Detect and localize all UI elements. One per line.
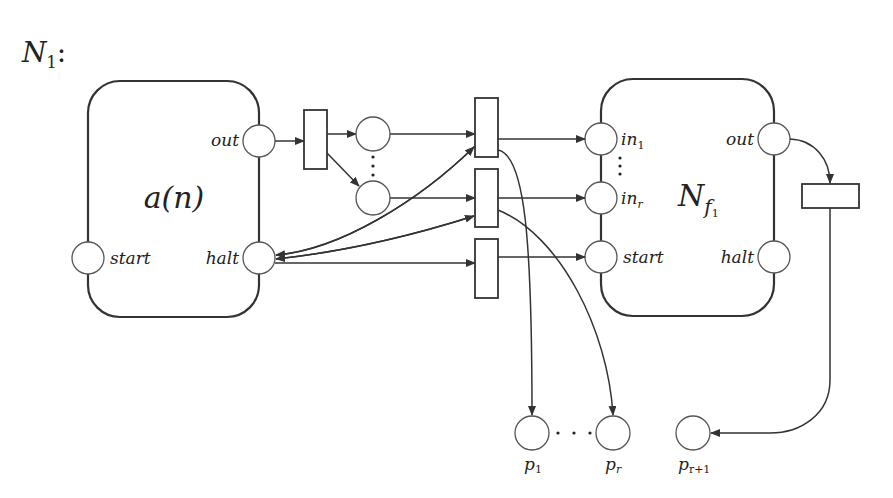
arc-halt-tb bbox=[276, 216, 474, 259]
ellipsis-dot bbox=[572, 431, 575, 434]
nf-out-label: out bbox=[726, 129, 754, 149]
transition-out bbox=[802, 184, 859, 208]
nf-inr-place bbox=[585, 182, 617, 214]
label-pr1: pr+1 bbox=[678, 454, 710, 476]
diagram-title: N1: bbox=[21, 36, 66, 72]
place-p1 bbox=[515, 416, 549, 450]
nf-in1-label: in1 bbox=[621, 129, 644, 152]
nf-out-place bbox=[758, 123, 790, 155]
arc-nfout-to bbox=[790, 139, 830, 183]
place-pr1 bbox=[676, 416, 710, 450]
label-pr: pr bbox=[605, 454, 622, 476]
ellipsis-dot bbox=[618, 156, 621, 159]
transition-t1 bbox=[304, 110, 327, 169]
a-start-label: start bbox=[110, 248, 151, 268]
place-q1 bbox=[356, 117, 390, 151]
transition-tc bbox=[475, 239, 498, 298]
label-p1: p1 bbox=[524, 454, 542, 476]
ellipsis-dot bbox=[588, 431, 591, 434]
nf-halt-place bbox=[758, 241, 790, 273]
arcs bbox=[275, 134, 830, 433]
module-nf1: Nf1 in1 inr start out halt bbox=[585, 79, 790, 316]
transition-tb bbox=[475, 169, 498, 227]
arc-tb-pr bbox=[498, 210, 613, 415]
a-halt-place bbox=[243, 242, 275, 274]
arc-tb-halt bbox=[276, 216, 474, 259]
a-out-label: out bbox=[211, 130, 239, 150]
ellipsis-dot bbox=[371, 155, 374, 158]
a-halt-label: halt bbox=[206, 248, 240, 268]
module-a-n: a(n) out halt start bbox=[72, 81, 275, 317]
module-nf1-label: Nf1 bbox=[677, 178, 719, 220]
place-qr bbox=[356, 181, 390, 215]
petri-net-diagram: N1: a(n) out halt start Nf1 in1 inr star… bbox=[0, 0, 893, 498]
a-out-place bbox=[243, 125, 275, 157]
ellipsis-dot bbox=[371, 164, 374, 167]
nf-inr-label: inr bbox=[621, 188, 643, 211]
module-a-n-label: a(n) bbox=[144, 180, 205, 215]
ellipsis-dot bbox=[371, 173, 374, 176]
nf-in1-place bbox=[585, 123, 617, 155]
transition-ta bbox=[475, 98, 498, 157]
nf-halt-label: halt bbox=[721, 247, 755, 267]
nf-start-place bbox=[585, 241, 617, 273]
arc-ta-p1 bbox=[498, 150, 532, 415]
a-start-place bbox=[72, 242, 104, 274]
arc-t1-qr bbox=[327, 153, 359, 186]
nf-start-label: start bbox=[623, 247, 664, 267]
ellipsis-dot bbox=[618, 172, 621, 175]
ellipsis-dot bbox=[556, 431, 559, 434]
ellipsis-dot bbox=[618, 164, 621, 167]
place-pr bbox=[596, 416, 630, 450]
